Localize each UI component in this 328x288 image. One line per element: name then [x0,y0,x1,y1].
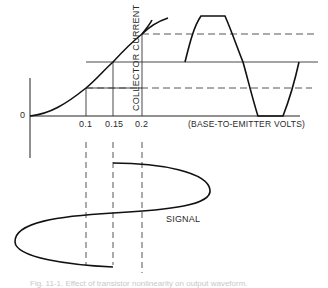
y-axis-label: COLLECTOR CURRENT [131,5,141,111]
transfer-curve-tip [142,18,168,34]
x-tick-0.2: 0.2 [135,119,148,129]
origin-label: 0 [20,110,25,120]
signal-label: SIGNAL [166,214,200,224]
x-axis-label: (BASE-TO-EMITTER VOLTS) [188,119,305,129]
x-tick-0.15: 0.15 [105,119,123,129]
figure-caption: Fig. 11-1. Effect of transistor nonlinea… [30,279,248,288]
x-tick-0.1: 0.1 [79,119,92,129]
output-waveform [185,16,299,116]
transfer-characteristic-diagram [0,0,328,288]
